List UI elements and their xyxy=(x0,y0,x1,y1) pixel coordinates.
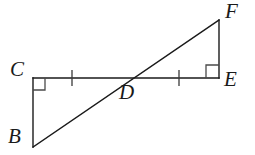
right-angle-C-icon xyxy=(33,78,45,90)
right-angle-E-icon xyxy=(206,65,219,78)
vertex-label-e: E xyxy=(224,69,237,90)
vertex-label-b: B xyxy=(8,126,21,147)
vertex-label-f: F xyxy=(225,1,238,22)
vertex-label-c: C xyxy=(10,59,24,80)
vertex-label-d: D xyxy=(119,82,134,103)
geometry-canvas xyxy=(0,0,255,155)
geometry-diagram: C B D E F xyxy=(0,0,255,155)
